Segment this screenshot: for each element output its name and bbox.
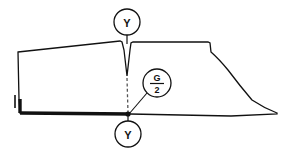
callout-girth-numerator: G xyxy=(153,73,160,83)
callout-bottom-y[interactable]: Y xyxy=(115,121,141,147)
bold-bottom-edge xyxy=(20,113,130,114)
callout-girth-denominator: 2 xyxy=(154,85,159,95)
center-point-marker xyxy=(125,111,130,116)
callout-top-label: Y xyxy=(123,17,131,29)
pattern-diagram: Y G 2 Y xyxy=(0,0,287,155)
callout-top-y[interactable]: Y xyxy=(114,9,140,35)
callout-bottom-label: Y xyxy=(124,129,132,141)
callout-girth-half[interactable]: G 2 xyxy=(143,69,171,97)
pattern-drawing-svg: Y G 2 Y xyxy=(0,0,287,155)
